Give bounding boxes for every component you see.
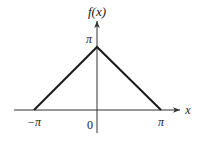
triangle-function-plot: f(x) π x −π 0 π <box>0 0 199 141</box>
x-tick-label-zero: 0 <box>87 118 93 132</box>
x-tick-label-pi: π <box>158 115 165 129</box>
peak-label: π <box>86 32 93 46</box>
x-tick-label-neg-pi: −π <box>27 115 42 129</box>
x-axis-label: x <box>184 103 191 117</box>
y-axis-label: f(x) <box>88 4 106 19</box>
